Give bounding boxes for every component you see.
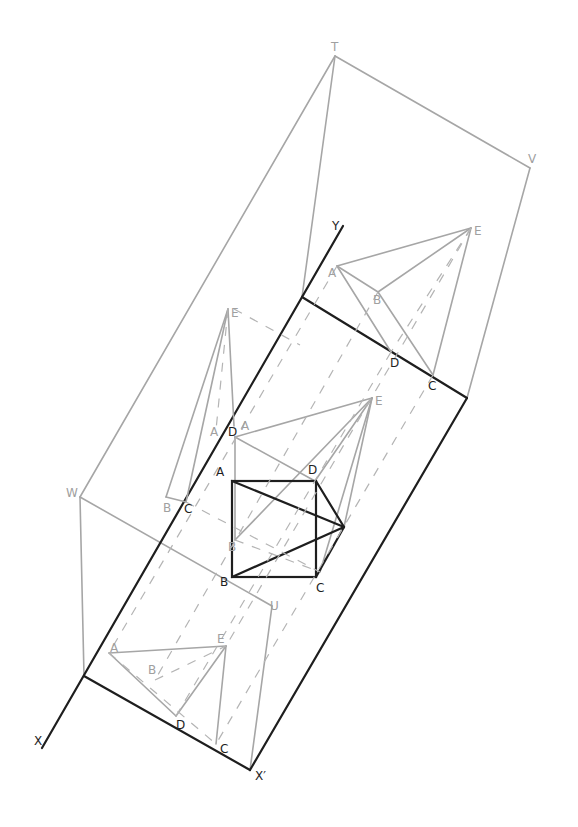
lower-labels: A B E D C bbox=[110, 632, 228, 756]
label-B: B bbox=[163, 501, 171, 515]
label-A: A bbox=[210, 425, 219, 439]
label-D: D bbox=[308, 463, 317, 477]
label-V: V bbox=[528, 152, 537, 166]
label-A: A bbox=[110, 641, 119, 655]
label-B: B bbox=[228, 540, 236, 554]
label-X: X bbox=[34, 734, 42, 748]
label-D: D bbox=[176, 718, 185, 732]
label-Y: Y bbox=[331, 219, 340, 233]
label-C: C bbox=[316, 581, 324, 595]
label-W: W bbox=[66, 486, 78, 500]
label-B: B bbox=[148, 663, 156, 677]
projection-diagram: T V W U Y X X′ A B D C E E A A D B C E D… bbox=[0, 0, 578, 827]
label-D: D bbox=[390, 356, 399, 370]
label-A: A bbox=[328, 266, 337, 280]
label-D: D bbox=[228, 425, 237, 439]
label-C: C bbox=[220, 742, 228, 756]
left-side-view bbox=[166, 309, 300, 502]
plan-view bbox=[232, 481, 344, 577]
label-T: T bbox=[330, 40, 339, 54]
upper-right-view bbox=[337, 228, 471, 375]
frame-labels: T V W U bbox=[66, 40, 537, 613]
label-X-prime: X′ bbox=[255, 769, 266, 783]
label-A: A bbox=[241, 419, 250, 433]
label-B: B bbox=[220, 575, 228, 589]
label-B: B bbox=[373, 293, 381, 307]
label-E: E bbox=[217, 632, 225, 646]
reference-lines bbox=[42, 226, 467, 770]
label-A: A bbox=[216, 465, 225, 479]
label-U: U bbox=[270, 599, 279, 613]
label-E: E bbox=[375, 394, 383, 408]
label-C: C bbox=[428, 379, 436, 393]
label-E: E bbox=[231, 306, 239, 320]
lower-view bbox=[109, 646, 226, 744]
label-E: E bbox=[474, 224, 482, 238]
label-C: C bbox=[184, 502, 192, 516]
